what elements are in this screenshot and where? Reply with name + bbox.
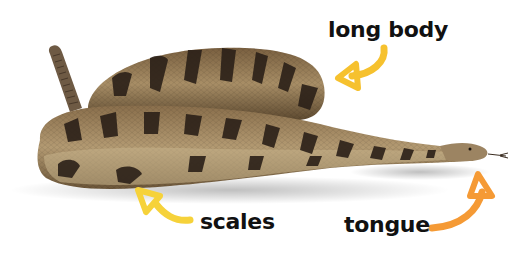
label-long-body: long body [328, 19, 448, 41]
label-tongue: tongue [344, 214, 430, 236]
label-scales: scales [200, 211, 275, 233]
annotated-snake-image: long body scales tongue [0, 0, 530, 262]
tail-rattle [49, 45, 82, 112]
